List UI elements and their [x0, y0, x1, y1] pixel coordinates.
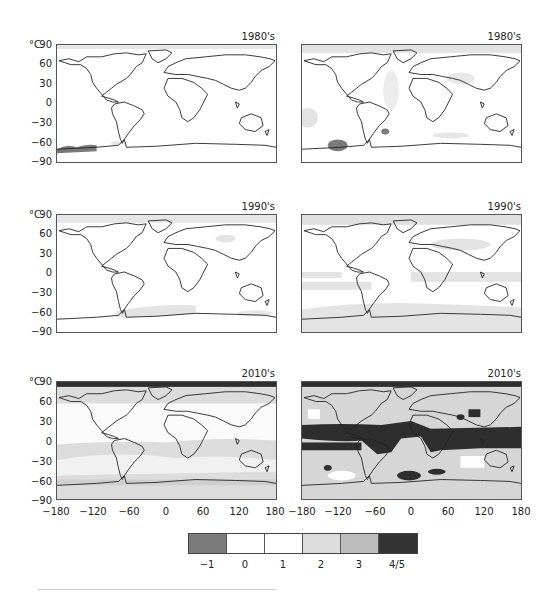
x-tick: 180: [506, 506, 536, 517]
map-panel-1980s-left: [56, 44, 277, 163]
y-tick: 90: [18, 377, 52, 387]
x-tick: 120: [224, 506, 254, 517]
x-tick: 60: [433, 506, 463, 517]
x-tick: −120: [78, 506, 108, 517]
panel-title-2010s-right: 2010's: [401, 368, 521, 379]
y-tick: 60: [18, 397, 52, 407]
legend-swatch-1: [265, 534, 303, 553]
color-legend: [188, 533, 418, 554]
panel-title-1980s-left: 1980's: [155, 31, 275, 42]
map-panel-1990s-right: [301, 214, 522, 333]
y-tick: 90: [18, 210, 52, 220]
y-tick: −60: [18, 138, 52, 148]
legend-swatch-3: [341, 534, 379, 553]
y-tick: −30: [18, 288, 52, 298]
y-tick: −30: [18, 457, 52, 467]
x-tick: −180: [287, 506, 317, 517]
legend-label: 4/5: [378, 559, 416, 570]
x-tick: 0: [151, 506, 181, 517]
map-panel-1980s-right: [301, 44, 522, 163]
y-tick: 0: [18, 437, 52, 447]
y-tick: 90: [18, 40, 52, 50]
legend-label: 0: [226, 559, 264, 570]
legend-label: −1: [188, 559, 226, 570]
panel-title-1980s-right: 1980's: [401, 31, 521, 42]
legend-label: 2: [302, 559, 340, 570]
x-tick: 180: [260, 506, 290, 517]
y-tick: −90: [18, 327, 52, 337]
x-tick: −60: [114, 506, 144, 517]
x-tick: 120: [469, 506, 499, 517]
legend-label: 1: [264, 559, 302, 570]
y-tick: 30: [18, 417, 52, 427]
x-tick: 60: [188, 506, 218, 517]
legend-label: 3: [340, 559, 378, 570]
x-tick: −60: [360, 506, 390, 517]
y-tick: 60: [18, 59, 52, 69]
y-tick: 30: [18, 249, 52, 259]
y-tick: −90: [18, 157, 52, 167]
panel-title-2010s-left: 2010's: [155, 368, 275, 379]
y-tick: −30: [18, 118, 52, 128]
x-tick: −120: [323, 506, 353, 517]
legend-swatch-2: [303, 534, 341, 553]
y-tick: −90: [18, 496, 52, 506]
y-tick: 0: [18, 268, 52, 278]
map-panel-2010s-left: [56, 381, 277, 500]
x-tick: 0: [396, 506, 426, 517]
panel-title-1990s-left: 1990's: [155, 201, 275, 212]
y-tick: −60: [18, 308, 52, 318]
y-tick: 30: [18, 79, 52, 89]
x-tick: −180: [41, 506, 71, 517]
footnote-divider: [38, 589, 276, 590]
y-tick: 60: [18, 229, 52, 239]
legend-swatch-neg1: [189, 534, 227, 553]
legend-swatch-4-5: [379, 534, 417, 553]
y-tick: −60: [18, 477, 52, 487]
map-panel-2010s-right: [301, 381, 522, 500]
legend-swatch-0: [227, 534, 265, 553]
y-tick: 0: [18, 98, 52, 108]
panel-title-1990s-right: 1990's: [401, 201, 521, 212]
map-panel-1990s-left: [56, 214, 277, 333]
